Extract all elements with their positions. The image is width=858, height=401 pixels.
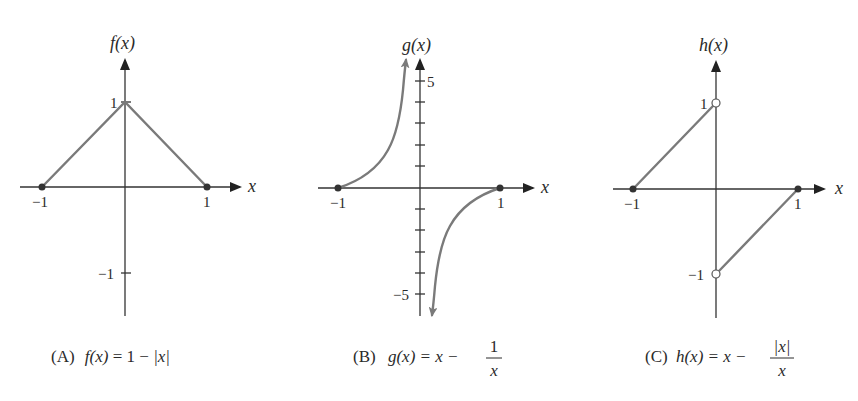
x-tick-label: −1 (330, 195, 346, 211)
x-tick-label: 1 (203, 194, 211, 210)
closed-point (630, 186, 637, 193)
open-point (712, 270, 720, 278)
closed-point (795, 186, 802, 193)
panel-c-graph: h(x) x −1 1 1 −1 (C) h(x) = x − |x| x (613, 35, 843, 380)
h-right-segment (719, 189, 798, 271)
caption-prefix: (C) (645, 347, 668, 366)
x-tick-label: −1 (624, 196, 640, 212)
closed-point (335, 185, 342, 192)
y-axis-label: f(x) (110, 33, 135, 54)
x-tick-label: −1 (32, 194, 48, 210)
open-point (712, 99, 720, 107)
y-axis-label: h(x) (699, 35, 728, 56)
closed-point (204, 184, 211, 191)
caption-c: (C) h(x) = x − (645, 347, 747, 366)
y-tick-label: 1 (700, 96, 708, 112)
x-axis-label: x (834, 178, 843, 198)
y-tick-label: −1 (688, 267, 704, 283)
caption-equals: = x − (420, 347, 459, 366)
caption-prefix: (A) (51, 347, 75, 366)
x-axis-label: x (540, 177, 549, 197)
y-tick-label: −1 (98, 266, 114, 282)
caption-fraction-denominator: x (777, 361, 786, 380)
panel-b-graph: g(x) x −1 1 5 −5 (B) g(x) = x − 1 x (318, 35, 549, 380)
closed-point (497, 185, 504, 192)
x-tick-label: 1 (794, 196, 802, 212)
caption-prefix: (B) (353, 347, 376, 366)
y-tick-label: −5 (393, 287, 409, 303)
g-right-branch (432, 188, 500, 315)
caption-fraction-numerator: |x| (774, 337, 791, 356)
caption-abs: |x| (153, 347, 170, 366)
caption-fraction-numerator: 1 (490, 337, 499, 356)
y-tick-label: 1 (110, 95, 118, 111)
caption-fraction-denominator: x (489, 361, 498, 380)
panel-a-graph: f(x) x −1 1 1 −1 (A) f(x) = 1 − |x| (20, 33, 256, 366)
caption-equals: = 1 − (113, 347, 153, 366)
g-left-branch (338, 60, 406, 188)
x-axis-label: x (247, 176, 256, 196)
caption-function: g(x) (388, 347, 416, 366)
caption-equals: = x − (708, 347, 747, 366)
y-axis-label: g(x) (402, 35, 431, 56)
caption-function: f(x) (85, 347, 109, 366)
h-left-segment (633, 106, 713, 189)
caption-function: h(x) (676, 347, 704, 366)
closed-point (39, 184, 46, 191)
caption-b: (B) g(x) = x − (353, 347, 459, 366)
x-tick-label: 1 (497, 195, 505, 211)
y-tick-label: 5 (427, 74, 435, 90)
caption-a: (A) f(x) = 1 − |x| (51, 347, 170, 366)
figure-canvas: f(x) x −1 1 1 −1 (A) f(x) = 1 − |x| (0, 0, 858, 401)
